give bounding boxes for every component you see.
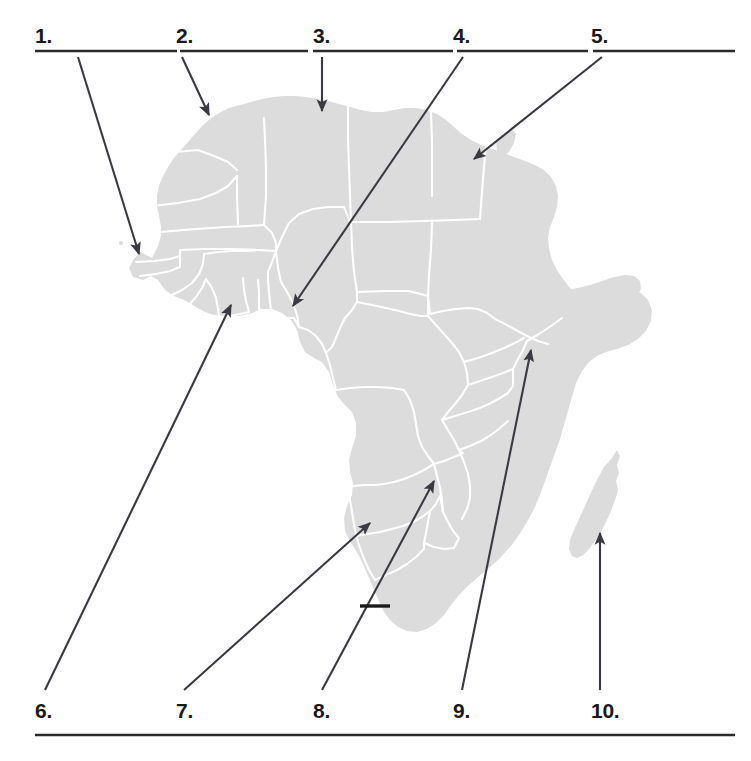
blank-number-9: 9. bbox=[453, 700, 470, 721]
africa-map bbox=[119, 96, 652, 632]
blank-number-10: 10. bbox=[591, 700, 619, 721]
pointer-5 bbox=[474, 57, 602, 159]
island-speck-a bbox=[119, 241, 123, 245]
pointer-7 bbox=[184, 523, 370, 690]
blank-number-4: 4. bbox=[453, 25, 470, 46]
blank-number-7: 7. bbox=[176, 700, 193, 721]
blank-number-2: 2. bbox=[176, 25, 193, 46]
blank-number-1: 1. bbox=[35, 25, 52, 46]
blank-number-5: 5. bbox=[591, 25, 608, 46]
blank-number-3: 3. bbox=[313, 25, 330, 46]
worksheet-page: 1. 2. 3. 4. 5. 6. 7. 8. 9. 10. bbox=[0, 0, 751, 761]
madagascar-shape bbox=[569, 450, 620, 558]
pointer-2 bbox=[182, 57, 209, 115]
pointer-6 bbox=[45, 305, 231, 690]
blank-number-6: 6. bbox=[35, 700, 52, 721]
worksheet-canvas bbox=[0, 0, 751, 761]
blank-number-8: 8. bbox=[313, 700, 330, 721]
pointer-1 bbox=[78, 57, 139, 254]
